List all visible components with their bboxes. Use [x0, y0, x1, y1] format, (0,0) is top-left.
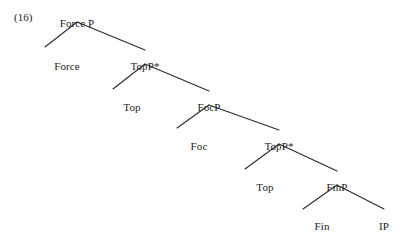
tree-node-foc: Foc: [191, 140, 208, 152]
tree-node-focp: FocP: [197, 101, 220, 113]
tree-node-topp2: TopP*: [264, 140, 293, 152]
tree-node-finp: FinP: [326, 181, 347, 193]
tree-node-forcep: Force P: [60, 17, 95, 29]
tree-node-top2: Top: [256, 181, 273, 193]
syntax-tree-figure: (16) Force PForceTopP*TopFocPFocTopP*Top…: [0, 0, 411, 239]
tree-node-topp1: TopP*: [130, 60, 159, 72]
tree-branch-lines: [0, 0, 411, 239]
tree-node-ip: IP: [379, 220, 389, 232]
tree-node-top1: Top: [123, 101, 140, 113]
tree-node-force: Force: [54, 60, 80, 72]
tree-node-fin: Fin: [315, 220, 330, 232]
